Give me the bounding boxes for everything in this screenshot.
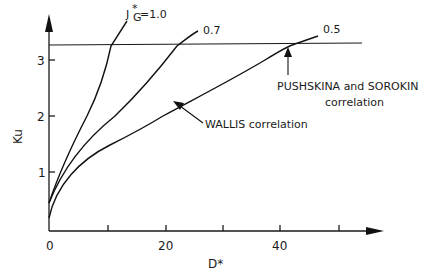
jg-label-J: J bbox=[125, 8, 129, 21]
curve-label-0.7: 0.7 bbox=[203, 24, 221, 37]
y-axis-label: Ku bbox=[11, 129, 25, 144]
wallis-arrowhead-icon bbox=[173, 101, 184, 110]
pushskina-sorokin-line bbox=[49, 43, 362, 45]
y-tick-label-1: 1 bbox=[38, 166, 46, 180]
x-tick-label-40: 40 bbox=[272, 239, 287, 253]
y-axis-arrow-icon bbox=[45, 14, 53, 32]
wallis-label: WALLIS correlation bbox=[205, 118, 308, 131]
pushskina-label-line2: correlation bbox=[325, 96, 384, 109]
y-tick-label-2: 2 bbox=[37, 110, 45, 124]
jg-label-value: =1.0 bbox=[140, 8, 167, 21]
y-tick-label-3: 3 bbox=[37, 54, 45, 68]
pushskina-label-line1: PUSHSKINA and SOROKIN bbox=[277, 80, 418, 93]
wallis-arrow bbox=[180, 106, 203, 123]
jg-label-star: * bbox=[132, 2, 138, 15]
x-tick-label-20: 20 bbox=[158, 239, 173, 253]
x-axis-arrow-icon bbox=[366, 227, 384, 235]
curve-jg-0.7 bbox=[49, 31, 198, 203]
curve-label-0.5: 0.5 bbox=[323, 23, 341, 36]
curve-jg-1.0 bbox=[49, 21, 127, 203]
x-tick-label-0: 0 bbox=[46, 239, 54, 253]
chart-figure: 3 2 1 0 20 40 Ku D* J G * =1.0 0.7 0.5 W… bbox=[0, 0, 441, 276]
x-axis-label: D* bbox=[208, 257, 223, 271]
